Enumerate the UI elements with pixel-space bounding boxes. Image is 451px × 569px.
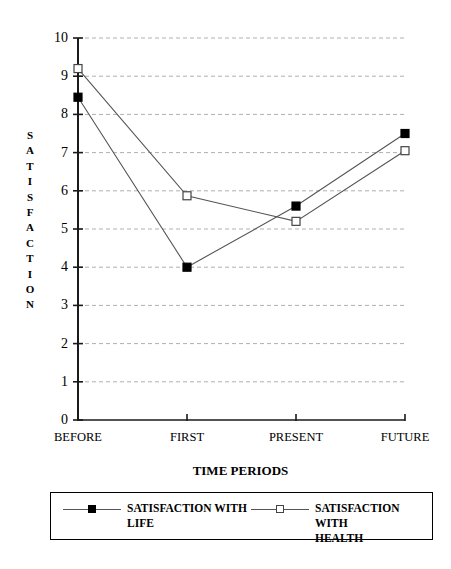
x-axis-title-text: TIME PERIODS (193, 463, 289, 479)
data-point-filled-square (74, 93, 82, 101)
x-axis-tick-label: FUTURE (381, 431, 430, 444)
data-point-open-square (183, 192, 191, 200)
data-point-filled-square (183, 263, 191, 271)
x-axis-tick-label: FIRST (170, 431, 204, 444)
chart-legend: SATISFACTION WITH LIFE SATISFACTION WITH… (50, 492, 433, 540)
data-point-open-square (74, 65, 82, 73)
legend-marker-open-square-icon (251, 502, 309, 516)
x-axis-tick-label: PRESENT (269, 431, 323, 444)
data-point-open-square (401, 147, 409, 155)
data-point-filled-square (401, 130, 409, 138)
legend-marker-filled-square-icon (63, 502, 121, 516)
legend-item-satisfaction-with-health: SATISFACTION WITH HEALTH (251, 501, 432, 546)
legend-label-life: SATISFACTION WITH LIFE (127, 501, 247, 531)
x-axis-title: TIME PERIODS (0, 463, 451, 479)
legend-item-satisfaction-with-life: SATISFACTION WITH LIFE (63, 501, 247, 531)
data-point-filled-square (292, 202, 300, 210)
series-line-open-square (78, 69, 405, 222)
data-point-open-square (292, 217, 300, 225)
plot-area (0, 0, 451, 569)
x-axis-tick-label: BEFORE (54, 431, 102, 444)
legend-label-health: SATISFACTION WITH HEALTH (315, 501, 432, 546)
satisfaction-line-chart: SATISFACTION 109876543210 BEFOREFIRSTPRE… (0, 0, 451, 569)
